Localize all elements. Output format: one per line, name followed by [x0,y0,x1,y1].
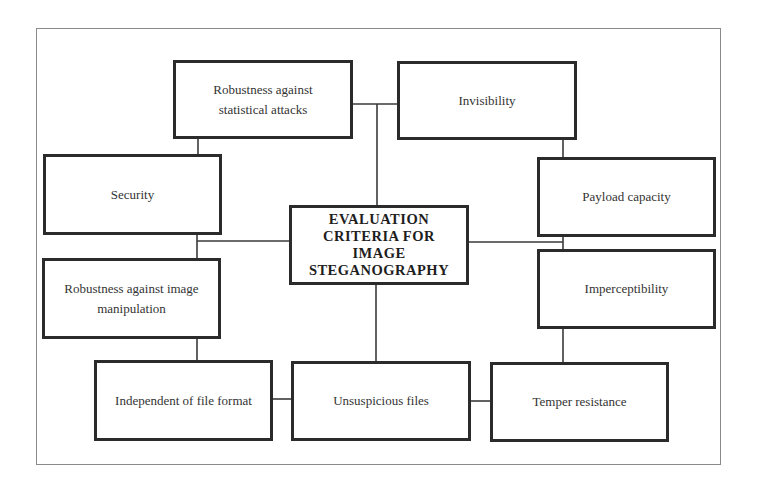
node-security: Security [43,154,222,235]
node-robustness-image-manipulation: Robustness against image manipulation [42,258,221,339]
node-imperceptibility: Imperceptibility [537,249,716,329]
node-label: Security [111,185,154,205]
node-label: Robustness against statistical attacks [213,80,312,120]
node-independent-of-file-format: Independent of file format [94,360,273,441]
node-label: Unsuspicious files [333,391,429,411]
node-label: Imperceptibility [585,279,669,299]
center-node-evaluation-criteria: EVALUATION CRITERIA FOR IMAGE STEGANOGRA… [289,205,469,285]
node-label: Independent of file format [115,391,252,411]
node-label: Temper resistance [532,392,626,412]
node-label: Payload capacity [582,187,670,207]
center-label: EVALUATION CRITERIA FOR IMAGE STEGANOGRA… [309,211,449,279]
node-payload-capacity: Payload capacity [537,157,716,237]
node-unsuspicious-files: Unsuspicious files [291,361,471,441]
node-label: Robustness against image manipulation [64,279,198,319]
node-temper-resistance: Temper resistance [490,362,669,442]
node-robustness-statistical-attacks: Robustness against statistical attacks [173,60,353,139]
node-label: Invisibility [458,91,515,111]
node-invisibility: Invisibility [397,61,577,140]
